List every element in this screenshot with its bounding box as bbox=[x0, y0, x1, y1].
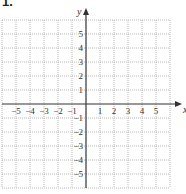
x-tick-label: 3 bbox=[126, 106, 131, 116]
x-tick-label: −3 bbox=[39, 106, 49, 116]
x-tick-label: −5 bbox=[11, 106, 21, 116]
y-tick-label: −4 bbox=[73, 155, 83, 165]
x-tick-label: 5 bbox=[154, 106, 159, 116]
x-axis-arrow-icon bbox=[175, 101, 182, 107]
x-tick-label: −4 bbox=[25, 106, 35, 116]
y-axis-label: y bbox=[76, 6, 82, 17]
x-tick-label: 4 bbox=[140, 106, 145, 116]
y-tick-label: −3 bbox=[73, 141, 83, 151]
y-tick-label: −1 bbox=[73, 113, 83, 123]
y-tick-label: 4 bbox=[79, 43, 84, 53]
x-tick-label: 1 bbox=[98, 106, 103, 116]
x-tick-label: 2 bbox=[112, 106, 117, 116]
y-tick-label: 1 bbox=[79, 85, 84, 95]
y-tick-label: 2 bbox=[79, 71, 84, 81]
y-tick-label: −5 bbox=[73, 169, 83, 179]
x-axis-label: x bbox=[182, 104, 186, 115]
x-tick-label: −2 bbox=[53, 106, 63, 116]
y-tick-label: −2 bbox=[73, 127, 83, 137]
y-axis-arrow-icon bbox=[83, 8, 89, 15]
coordinate-grid: xy−5−4−3−2−11234554321−1−2−3−4−5 bbox=[0, 0, 186, 194]
y-tick-label: 3 bbox=[79, 57, 84, 67]
y-tick-label: 5 bbox=[79, 29, 84, 39]
